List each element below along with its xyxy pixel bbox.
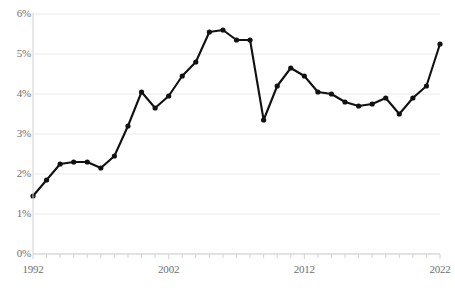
x-tick-label-1992: 1992 xyxy=(10,264,56,275)
x-tick-label-2002: 2002 xyxy=(146,264,192,275)
x-tick-label-2022: 2022 xyxy=(417,264,455,275)
x-tick-label-2012: 2012 xyxy=(281,264,327,275)
